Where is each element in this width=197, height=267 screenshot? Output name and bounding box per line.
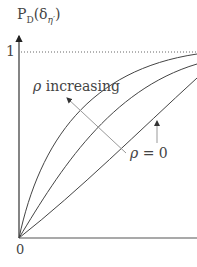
y-tick-one: 1 — [6, 43, 15, 59]
rho-increasing-label: ρ increasing — [33, 78, 120, 94]
rho-increasing-arrow — [67, 98, 126, 153]
rho-zero-label: ρ = 0 — [130, 145, 168, 161]
chart-canvas — [0, 0, 197, 267]
x-tick-zero: 0 — [16, 242, 24, 257]
y-axis-label: PD(δη′) — [17, 6, 60, 25]
curve-rho-zero — [19, 78, 197, 238]
